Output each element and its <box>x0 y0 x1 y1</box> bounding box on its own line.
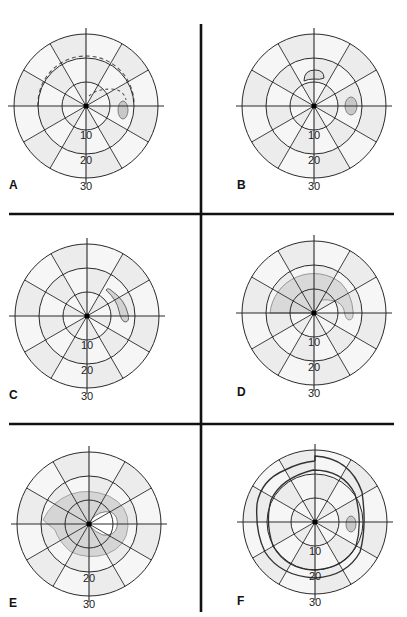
ring-label-10: 10 <box>308 129 320 141</box>
ring-label-20: 20 <box>308 361 320 373</box>
panel-letter: D <box>237 385 246 399</box>
ring-label-20: 20 <box>83 572 95 584</box>
panel-f: 102030F <box>237 444 393 608</box>
ring-label-30: 30 <box>80 180 92 192</box>
fixation-point <box>311 310 316 315</box>
ring-label-30: 30 <box>308 387 320 399</box>
panel-letter: A <box>9 178 18 192</box>
fixation-point <box>86 521 91 526</box>
panel-b: 102030B <box>236 28 392 192</box>
panel-d: 102030D <box>236 235 392 399</box>
fixation-point <box>312 519 317 524</box>
blind-spot <box>346 516 356 532</box>
ring-label-10: 10 <box>309 545 321 557</box>
panel-letter: E <box>9 596 17 610</box>
ring-label-10: 10 <box>81 339 93 351</box>
panel-letter: F <box>237 594 244 608</box>
panel-letter: B <box>237 178 246 192</box>
ring-label-20: 20 <box>308 154 320 166</box>
ring-label-30: 30 <box>83 598 95 610</box>
fixation-point <box>311 103 316 108</box>
ring-label-30: 30 <box>309 596 321 608</box>
ring-label-20: 20 <box>81 364 93 376</box>
ring-label-20: 20 <box>80 154 92 166</box>
panel-c: 102030C <box>9 238 165 402</box>
visual-field-figure: 102030A102030B102030C102030D2030E102030F <box>0 0 407 617</box>
ring-label-10: 10 <box>308 336 320 348</box>
ring-label-20: 20 <box>309 570 321 582</box>
fixation-point <box>83 103 88 108</box>
ring-label-30: 30 <box>81 390 93 402</box>
ring-label-30: 30 <box>308 180 320 192</box>
panel-a: 102030A <box>8 28 164 192</box>
ring-label-10: 10 <box>80 129 92 141</box>
panel-letter: C <box>9 388 18 402</box>
panel-e: 2030E <box>9 446 167 610</box>
blind-spot <box>118 101 128 119</box>
fixation-point <box>84 313 89 318</box>
